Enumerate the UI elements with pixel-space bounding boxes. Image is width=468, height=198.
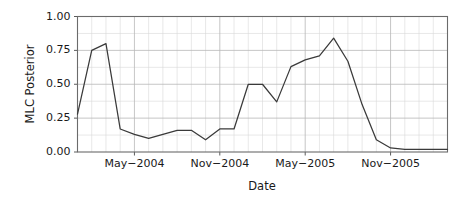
y-tick-label: 0.25 xyxy=(46,111,71,124)
x-tick-label: May−2004 xyxy=(104,157,164,170)
x-tick-label: May−2005 xyxy=(275,157,335,170)
y-tick-label: 0.75 xyxy=(46,43,71,56)
chart-figure: 0.000.250.500.751.00 May−2004Nov−2004May… xyxy=(0,0,468,198)
y-axis-title: MLC Posterior xyxy=(23,44,37,123)
x-axis-title: Date xyxy=(248,179,276,193)
y-tick-label: 0.50 xyxy=(46,77,71,90)
x-tick-label: Nov−2005 xyxy=(361,157,420,170)
y-tick-label: 0.00 xyxy=(46,145,71,158)
x-tick-label: Nov−2004 xyxy=(190,157,249,170)
line-chart-svg: 0.000.250.500.751.00 May−2004Nov−2004May… xyxy=(0,0,468,198)
y-tick-label: 1.00 xyxy=(46,10,71,23)
